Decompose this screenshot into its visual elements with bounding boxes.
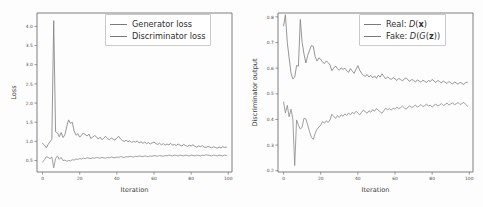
figure-gan-training-curves: 0204060801000.51.01.52.02.53.03.54.0Iter… [0, 0, 483, 207]
loss-series-1 [43, 155, 227, 168]
legend-discriminator-output: Real: D(x) Fake: D(G(z)) [359, 14, 446, 46]
doutput-xticklabel: 40 [355, 176, 361, 181]
legend-loss: Generator loss Discriminator loss [105, 14, 211, 46]
loss-xticklabel: 0 [41, 176, 44, 181]
legend-real-prefix: Real: [386, 19, 406, 29]
doutput-xticklabel: 80 [429, 176, 435, 181]
loss-xticklabel: 40 [114, 176, 120, 181]
legend-item-fake: Fake: D(G(z)) [364, 30, 440, 42]
loss-xticklabel: 60 [151, 176, 157, 181]
doutput-xaxis-title: Iteration [362, 186, 390, 194]
doutput-xticklabel: 60 [392, 176, 398, 181]
legend-item-generator-loss: Generator loss [110, 18, 205, 30]
loss-yticklabel: 2.5 [26, 82, 33, 87]
legend-item-real: Real: D(x) [364, 18, 440, 30]
doutput-yticklabel: 0.5 [267, 91, 274, 96]
loss-yticklabel: 2.0 [26, 101, 33, 106]
loss-xaxis-title: Iteration [121, 186, 149, 194]
doutput-yticklabel: 0.6 [267, 66, 274, 71]
loss-yticklabel: 0.5 [26, 158, 33, 163]
loss-yaxis-title: Loss [10, 85, 18, 100]
legend-label-fake: Fake: D(G(z)) [386, 32, 440, 40]
loss-yticklabel: 1.5 [26, 120, 33, 125]
loss-yticklabel: 3.0 [26, 62, 33, 67]
doutput-yticklabel: 0.4 [267, 117, 274, 122]
legend-label-real: Real: D(x) [386, 20, 427, 28]
loss-yticklabel: 1.0 [26, 139, 33, 144]
doutput-yticklabel: 0.7 [267, 40, 274, 45]
loss-yticklabel: 4.0 [26, 24, 33, 29]
loss-xticklabel: 20 [77, 176, 83, 181]
loss-xticklabel: 100 [224, 176, 233, 181]
legend-fake-prefix: Fake: [386, 31, 407, 41]
doutput-yticklabel: 0.2 [267, 168, 274, 173]
chart-panel-loss: 0204060801000.51.01.52.02.53.03.54.0Iter… [0, 0, 242, 207]
doutput-series-1 [284, 102, 468, 166]
legend-line-generator-loss [110, 24, 127, 25]
doutput-xticklabel: 0 [282, 176, 285, 181]
legend-item-discriminator-loss: Discriminator loss [110, 30, 205, 42]
legend-line-fake [364, 36, 381, 37]
doutput-yaxis-title: Discriminator output [251, 58, 259, 127]
loss-xticklabel: 80 [188, 176, 194, 181]
legend-line-discriminator-loss [110, 36, 127, 37]
doutput-yticklabel: 0.3 [267, 143, 274, 148]
chart-panel-discriminator-output: 0204060801000.20.30.40.50.60.70.8Iterati… [241, 0, 483, 207]
legend-real-close: ) [424, 19, 427, 29]
doutput-yticklabel: 0.8 [267, 15, 274, 20]
doutput-xticklabel: 20 [318, 176, 324, 181]
legend-line-real [364, 24, 381, 25]
legend-fake-close: ) [437, 31, 440, 41]
doutput-xticklabel: 100 [465, 176, 474, 181]
loss-yticklabel: 3.5 [26, 43, 33, 48]
legend-label-discriminator-loss: Discriminator loss [132, 32, 205, 40]
legend-label-generator-loss: Generator loss [132, 20, 192, 28]
